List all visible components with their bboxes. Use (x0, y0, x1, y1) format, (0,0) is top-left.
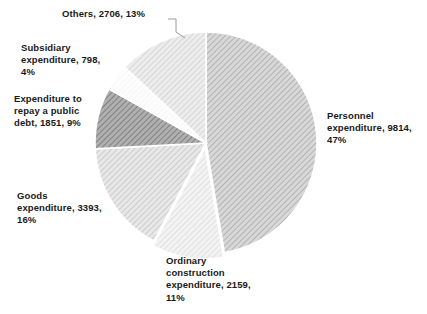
pie-slice-personnel[interactable] (206, 32, 317, 252)
slice-label-others: Others, 2706, 13% (62, 8, 222, 20)
pie-chart-figure: Others, 2706, 13% Subsidiary expenditure… (0, 0, 427, 314)
slice-label-goods-expenditure: Goods expenditure, 3393, 16% (17, 190, 139, 227)
slice-label-personnel-expenditure: Personnel expenditure, 9814, 47% (327, 110, 427, 147)
slice-label-subsidiary-expenditure: Subsidiary expenditure, 798, 4% (21, 42, 146, 79)
slice-label-ordinary-construction: Ordinary construction expenditure, 2159,… (166, 255, 296, 304)
slice-label-public-debt: Expenditure to repay a public debt, 1851… (14, 93, 134, 130)
